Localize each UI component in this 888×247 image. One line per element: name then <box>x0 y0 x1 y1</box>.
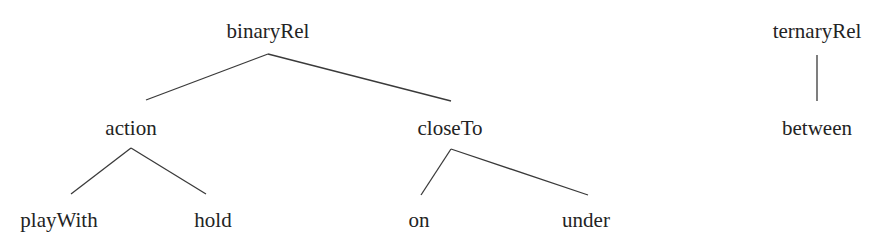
node-between: between <box>782 116 852 140</box>
edge-closeto-under <box>451 149 588 195</box>
node-action: action <box>105 116 157 140</box>
node-closeto: closeTo <box>417 116 482 140</box>
edge-action-playwith <box>71 148 131 194</box>
edge-action-hold <box>131 148 206 194</box>
edge-binaryrel-closeto <box>268 54 451 101</box>
node-under: under <box>562 208 610 232</box>
node-playwith: playWith <box>20 208 98 232</box>
nodes: binaryRel action closeTo playWith hold o… <box>20 19 861 232</box>
node-binaryrel: binaryRel <box>227 19 310 43</box>
node-hold: hold <box>194 208 232 232</box>
edge-closeto-on <box>421 149 451 195</box>
edge-binaryrel-action <box>146 54 268 100</box>
node-ternaryrel: ternaryRel <box>773 19 862 43</box>
relation-hierarchy-diagram: binaryRel action closeTo playWith hold o… <box>0 0 888 247</box>
node-on: on <box>409 208 431 232</box>
